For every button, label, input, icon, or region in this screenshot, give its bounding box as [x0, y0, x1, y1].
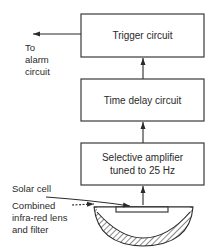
block-diagram: Trigger circuit To alarm circuit Time de…	[0, 0, 216, 248]
lens-label: Combined infra-red lens and filter	[12, 200, 68, 235]
svg-text:infra-red lens: infra-red lens	[12, 212, 68, 223]
lens-pointer	[72, 204, 94, 205]
trigger-circuit-label: Trigger circuit	[112, 30, 172, 41]
svg-text:circuit: circuit	[25, 66, 50, 77]
time-delay-label: Time delay circuit	[104, 95, 182, 106]
svg-text:and filter: and filter	[12, 224, 48, 235]
time-delay-block: Time delay circuit	[81, 79, 204, 121]
infrared-lens	[94, 207, 193, 246]
solar-cell-label: Solar cell	[12, 183, 51, 194]
svg-text:Combined: Combined	[12, 200, 55, 211]
svg-text:alarm: alarm	[25, 54, 49, 65]
amplifier-label-line1: Selective amplifier	[102, 152, 184, 163]
trigger-circuit-block: Trigger circuit	[81, 14, 204, 57]
amplifier-label-line2: tuned to 25 Hz	[110, 165, 175, 176]
solar-cell	[116, 207, 168, 212]
selective-amplifier-block: Selective amplifier tuned to 25 Hz	[81, 143, 204, 185]
svg-text:To: To	[25, 42, 35, 53]
alarm-output-label: To alarm circuit	[25, 42, 50, 77]
